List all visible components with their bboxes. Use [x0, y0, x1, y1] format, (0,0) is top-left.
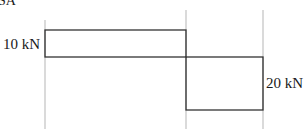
shear-force-diagram: SA 10 kN 20 kN: [0, 0, 306, 129]
positive-shear-block: [45, 30, 186, 57]
corner-label: SA: [0, 0, 17, 8]
left-value-label: 10 kN: [3, 36, 40, 52]
right-value-label: 20 kN: [266, 75, 303, 91]
negative-shear-block: [186, 57, 263, 110]
